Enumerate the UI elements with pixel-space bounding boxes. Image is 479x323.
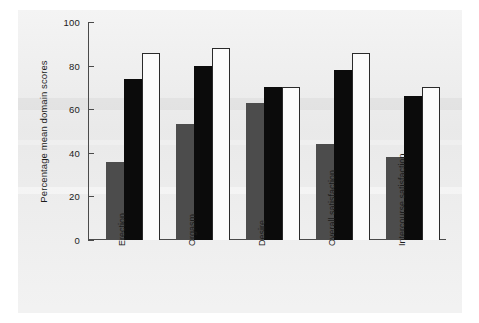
bar <box>212 48 230 240</box>
bar-group: Overall satisfaction <box>316 22 370 240</box>
bar-group: Orgasm <box>176 22 230 240</box>
x-axis-label-text: Intercourse satisfaction <box>397 153 408 246</box>
y-axis-tick: 60 <box>88 109 94 110</box>
figure-container: Percentage mean domain scores 0204060801… <box>0 0 479 323</box>
y-axis-tick: 100 <box>88 22 94 23</box>
y-axis-tick-label: 80 <box>69 60 80 71</box>
y-axis-tick: 20 <box>88 196 94 197</box>
x-axis-label-text: Orgasm <box>187 214 198 246</box>
y-axis-tick-label: 0 <box>75 235 80 246</box>
x-axis-label: Overall satisfaction <box>327 246 381 257</box>
y-axis-tick: 40 <box>88 153 94 154</box>
x-axis-label-text: Desire <box>257 220 268 246</box>
bar-group: Erection <box>106 22 160 240</box>
y-axis-label-text: Percentage mean domain scores <box>38 60 49 202</box>
bar-group: Intercourse satisfaction <box>386 22 440 240</box>
bar <box>264 87 282 240</box>
bar <box>422 87 440 240</box>
y-axis-tick-label: 20 <box>69 191 80 202</box>
y-axis-tick-label: 60 <box>69 104 80 115</box>
x-axis-label: Intercourse satisfaction <box>397 246 451 257</box>
y-axis-tick-label: 40 <box>69 147 80 158</box>
plot-area: 020406080100 ErectionOrgasmDesireOverall… <box>88 22 446 240</box>
bar <box>282 87 300 240</box>
y-axis-label: Percentage mean domain scores <box>36 22 50 240</box>
y-axis-tick-label: 100 <box>64 17 80 28</box>
y-axis-tick: 80 <box>88 66 94 67</box>
bar-group: Desire <box>246 22 300 240</box>
y-axis-tick: 0 <box>88 240 94 241</box>
bar <box>352 53 370 240</box>
x-axis-label-text: Overall satisfaction <box>327 170 338 246</box>
x-axis-label: Desire <box>257 246 311 257</box>
x-axis-label: Erection <box>117 246 171 257</box>
y-axis-line <box>88 22 89 240</box>
bar <box>142 53 160 240</box>
x-axis-label-text: Erection <box>117 213 128 246</box>
x-axis-label: Orgasm <box>187 246 241 257</box>
